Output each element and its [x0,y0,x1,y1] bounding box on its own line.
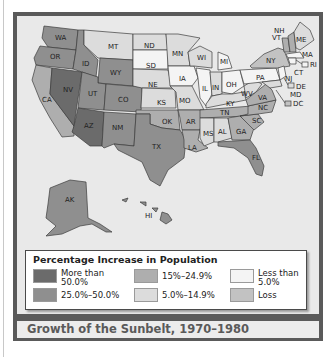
label-MN: MN [172,50,183,58]
legend-swatch [134,288,158,302]
label-VA: VA [258,94,267,102]
label-AZ: AZ [84,122,94,130]
label-LA: LA [188,144,197,152]
label-SC: SC [252,117,261,125]
map-title: Growth of the Sunbelt, 1970–1980 [27,322,249,336]
legend-item-loss: Loss [230,288,277,302]
label-NM: NM [112,124,123,132]
legend-item-25-50: 25.0%–50.0% [33,288,119,302]
legend-item-more-than-50: More than50.0% [33,269,104,286]
state-AK [46,180,112,236]
map-caption-bar: Growth of the Sunbelt, 1970–1980 [13,318,323,341]
label-KS: KS [157,99,167,107]
label-OR: OR [50,53,61,61]
label-VT: VT [272,34,282,42]
label-DC: DC [293,100,303,108]
legend-swatch [230,269,254,283]
state-RI [302,62,308,67]
label-OH: OH [226,81,237,89]
label-AR: AR [186,118,196,126]
label-PA: PA [256,74,265,82]
label-MS: MS [203,130,214,138]
label-AL: AL [218,128,227,136]
label-ND: ND [144,42,155,50]
state-DC [285,101,291,106]
label-KY: KY [226,100,235,108]
legend-item-15-24: 15%–24.9% [134,269,212,283]
legend-swatch [33,288,57,302]
state-HI [122,198,172,224]
label-IN: IN [212,84,219,92]
label-ID: ID [82,60,89,68]
label-HI: HI [145,212,152,220]
label-TX: TX [151,143,161,151]
legend-item-5-14: 5.0%–14.9% [134,288,215,302]
label-NC: NC [258,104,268,112]
label-IL: IL [202,85,208,93]
legend-title: Percentage Increase in Population [33,254,217,265]
label-WY: WY [110,69,122,77]
label-WI: WI [197,54,206,62]
label-GA: GA [236,128,246,136]
label-MO: MO [179,97,191,105]
label-MD: MD [290,91,301,99]
label-OK: OK [162,118,173,126]
map-legend: Percentage Increase in Population More t… [25,250,307,310]
label-MI: MI [220,58,228,66]
label-NE: NE [148,81,158,89]
label-TN: TN [219,109,230,117]
label-ME: ME [296,36,306,44]
label-NY: NY [266,57,276,65]
legend-swatch [230,288,254,302]
label-RI: RI [310,61,317,69]
label-WA: WA [55,34,67,42]
label-NH: NH [274,27,285,35]
label-WV: WV [241,90,253,98]
label-SD: SD [146,62,156,70]
legend-swatch [33,269,57,283]
label-MA: MA [302,51,313,59]
label-NJ: NJ [285,75,292,83]
label-CT: CT [294,69,304,77]
legend-swatch [134,269,158,283]
label-FL: FL [252,154,260,162]
state-DE [288,83,294,88]
label-DE: DE [296,83,306,91]
label-UT: UT [88,90,98,98]
label-CA: CA [42,96,52,104]
legend-item-less-than-5: Less than5.0% [230,269,299,286]
label-AK: AK [65,196,75,204]
label-CO: CO [118,96,129,104]
label-MT: MT [108,43,119,51]
label-IA: IA [179,75,186,83]
label-NV: NV [63,86,73,94]
